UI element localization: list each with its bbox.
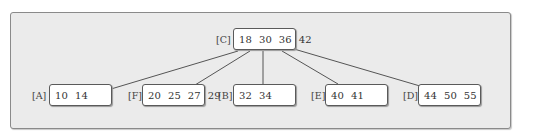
edge-c-d	[294, 49, 420, 86]
leaf-node-keys: 20 25 27 29	[148, 90, 221, 101]
leaf-node-d: 44 50 55	[418, 84, 481, 106]
root-node-keys: 18 30 36 42	[239, 34, 312, 45]
node-label-c: [C]	[216, 28, 231, 50]
leaf-node-keys: 10 14	[55, 90, 88, 101]
node-label-e: [E]	[311, 84, 325, 106]
node-label-d: [D]	[403, 84, 418, 106]
tree-edges	[0, 0, 545, 133]
leaf-node-keys: 44 50 55	[424, 90, 477, 101]
leaf-node-b: 32 34	[233, 84, 296, 106]
leaf-node-e: 40 41	[325, 84, 388, 106]
edge-c-e	[282, 51, 338, 84]
node-label-a: [A]	[32, 84, 46, 106]
leaf-node-keys: 32 34	[239, 90, 272, 101]
leaf-node-keys: 40 41	[331, 90, 364, 101]
leaf-node-a: 10 14	[49, 84, 112, 106]
node-label-b: [B]	[218, 84, 232, 106]
root-node: 18 30 36 42	[233, 28, 296, 50]
node-label-f: [F]	[128, 84, 142, 106]
leaf-node-f: 20 25 27 29	[142, 84, 205, 106]
